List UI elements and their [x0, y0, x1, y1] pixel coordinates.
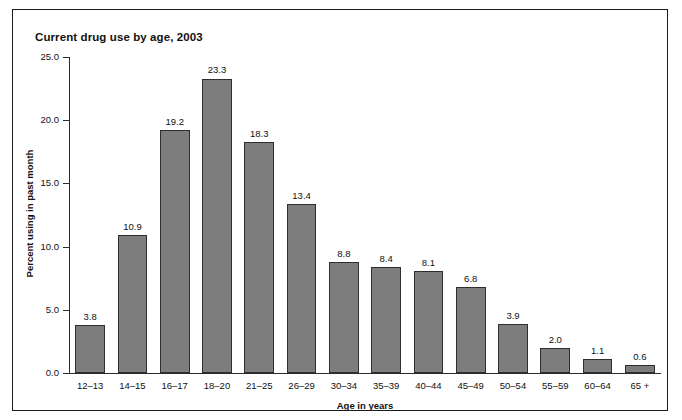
bar-value-label: 6.8	[450, 273, 492, 284]
chart-title: Current drug use by age, 2003	[35, 31, 203, 43]
y-axis-tick	[63, 373, 69, 374]
bar	[329, 262, 359, 373]
figure-frame: Current drug use by age, 2003 0.05.010.0…	[12, 9, 668, 411]
plot-area: 3.810.919.223.318.313.48.88.48.16.83.92.…	[69, 57, 661, 373]
bar-value-label: 19.2	[154, 116, 196, 127]
y-axis-title: Percent using in past month	[24, 119, 35, 309]
bar-value-label: 3.9	[492, 310, 534, 321]
bar	[371, 267, 401, 373]
bar-value-label: 2.0	[534, 334, 576, 345]
x-axis-tick-label: 21–25	[238, 380, 280, 391]
bar	[456, 287, 486, 373]
bar	[75, 325, 105, 373]
x-axis-title: Age in years	[69, 400, 661, 411]
bar-value-label: 8.8	[323, 248, 365, 259]
chart-figure: Current drug use by age, 2003 0.05.010.0…	[0, 0, 682, 420]
x-axis-tick-label: 65 +	[619, 380, 661, 391]
bar-value-label: 8.4	[365, 253, 407, 264]
bar	[414, 271, 444, 373]
bar-value-label: 1.1	[576, 345, 618, 356]
x-axis-tick-label: 30–34	[323, 380, 365, 391]
bar-value-label: 13.4	[280, 190, 322, 201]
bar	[498, 324, 528, 373]
bar	[625, 365, 655, 373]
bar-value-label: 10.9	[111, 221, 153, 232]
x-axis-line	[69, 373, 661, 374]
bar	[160, 130, 190, 373]
bar	[244, 142, 274, 373]
x-axis-tick-label: 55–59	[534, 380, 576, 391]
y-axis-tick-label: 0.0	[21, 367, 59, 378]
bar-value-label: 3.8	[69, 311, 111, 322]
x-axis-tick-label: 12–13	[69, 380, 111, 391]
bar	[287, 204, 317, 373]
bar	[540, 348, 570, 373]
x-axis-tick-label: 40–44	[407, 380, 449, 391]
bar	[583, 359, 613, 373]
x-axis-tick-label: 26–29	[280, 380, 322, 391]
bar-value-label: 18.3	[238, 128, 280, 139]
bar-value-label: 0.6	[619, 351, 661, 362]
x-axis-tick-label: 16–17	[154, 380, 196, 391]
bar	[118, 235, 148, 373]
bar	[202, 79, 232, 374]
x-axis-tick-label: 45–49	[450, 380, 492, 391]
x-axis-tick-label: 60–64	[576, 380, 618, 391]
x-axis-tick-label: 14–15	[111, 380, 153, 391]
bar-value-label: 23.3	[196, 64, 238, 75]
y-axis-tick-label: 25.0	[21, 51, 59, 62]
x-axis-tick-label: 35–39	[365, 380, 407, 391]
x-axis-tick-label: 50–54	[492, 380, 534, 391]
bar-value-label: 8.1	[407, 257, 449, 268]
x-axis-tick-label: 18–20	[196, 380, 238, 391]
